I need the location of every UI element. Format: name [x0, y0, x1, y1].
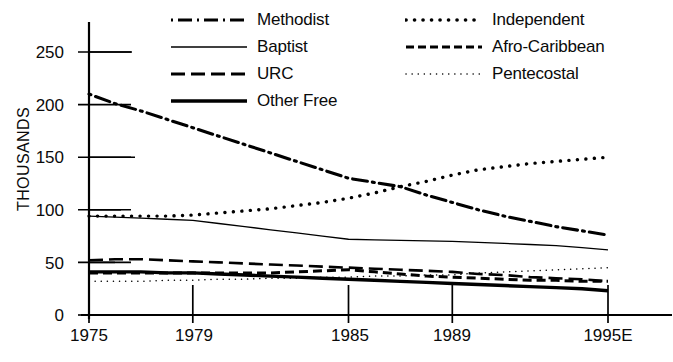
- line-key-solid-thick-icon: [170, 92, 248, 110]
- x-tick-1989: 1989: [417, 326, 487, 346]
- legend-label-pentecostal: Pentecostal: [492, 65, 579, 82]
- legend-label-baptist: Baptist: [257, 38, 308, 55]
- legend-item-methodist: Methodist: [170, 6, 405, 33]
- legend-item-other-free: Other Free: [170, 87, 405, 114]
- line-key-dashed-icon: [405, 38, 483, 56]
- line-key-dotted-thick-icon: [405, 11, 483, 29]
- legend-item-baptist: Baptist: [170, 33, 405, 60]
- x-tick-1979: 1979: [159, 326, 229, 346]
- legend-label-urc: URC: [257, 65, 293, 82]
- legend-item-independent: Independent: [405, 6, 670, 33]
- legend-label-methodist: Methodist: [257, 11, 329, 28]
- legend-item-afro-caribbean: Afro-Caribbean: [405, 33, 670, 60]
- series-layer: [89, 94, 608, 291]
- line-key-long-dash-icon: [170, 65, 248, 83]
- y-tick-250: 250: [18, 43, 64, 63]
- legend-label-independent: Independent: [492, 11, 584, 28]
- x-tick-1995E: 1995E: [573, 326, 643, 346]
- y-tick-100: 100: [18, 201, 64, 221]
- legend-item-urc: URC: [170, 60, 405, 87]
- y-tick-0: 0: [18, 306, 64, 326]
- legend-item-pentecostal: Pentecostal: [405, 60, 670, 87]
- legend-label-afro-caribbean: Afro-Caribbean: [492, 38, 604, 55]
- series-line-methodist: [89, 94, 608, 235]
- legend-label-other-free: Other Free: [257, 92, 337, 109]
- y-tick-50: 50: [18, 254, 64, 274]
- y-tick-150: 150: [18, 148, 64, 168]
- x-tick-1975: 1975: [54, 326, 124, 346]
- chart-container: THOUSANDS 250 200 150 100 50 0 1975 1979…: [0, 0, 673, 362]
- chart-legend: Methodist Independent Baptist Afro-Carib…: [170, 6, 670, 114]
- series-line-independent: [89, 157, 608, 216]
- y-tick-200: 200: [18, 96, 64, 116]
- line-key-dash-dot-icon: [170, 11, 248, 29]
- line-key-dotted-fine-icon: [405, 65, 483, 83]
- x-tick-1985: 1985: [315, 326, 385, 346]
- line-key-solid-thin-icon: [170, 38, 248, 56]
